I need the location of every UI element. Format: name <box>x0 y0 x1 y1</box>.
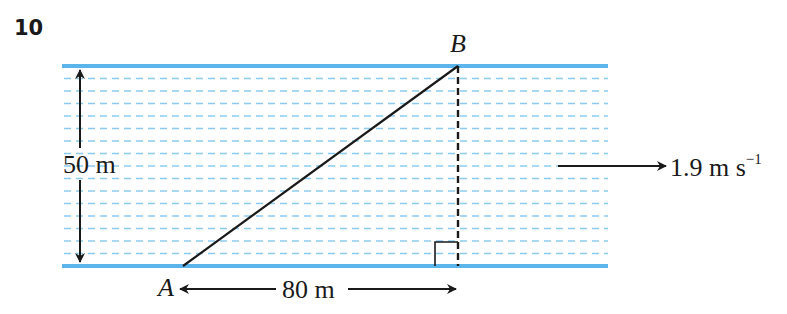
current-label: 1.9 m s−1 <box>670 151 762 182</box>
river-crossing-diagram: 50 m B A 80 m 1.9 m s−1 <box>0 0 787 314</box>
width-label: 50 m <box>63 150 116 179</box>
point-a-label: A <box>156 273 174 302</box>
distance-label: 80 m <box>282 275 335 304</box>
point-b-label: B <box>450 29 466 58</box>
water-lines <box>64 79 608 254</box>
